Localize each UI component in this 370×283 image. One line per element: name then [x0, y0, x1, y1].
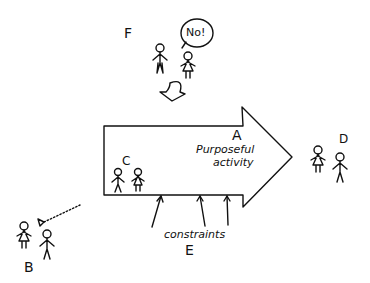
label-b: B [24, 260, 34, 274]
constraint-arrows [152, 196, 230, 227]
label-c: C [122, 155, 130, 167]
label-a: A [232, 128, 242, 142]
label-e: E [185, 243, 194, 257]
purposeful-activity-arrow [104, 107, 292, 207]
figure-group-d [311, 146, 347, 182]
speech-bubble-tail [182, 42, 186, 48]
f-to-a-arrow [160, 82, 185, 101]
arrow-text-line2: activity [213, 157, 254, 168]
figure-group-c [112, 169, 144, 193]
figure-group-f [153, 44, 195, 78]
figure-group-b [17, 222, 54, 259]
gaze-arrowhead [38, 219, 44, 226]
arrow-text-line1: Purposeful [196, 144, 254, 155]
constraints-text: constraints [164, 229, 225, 240]
speech-bubble-text: No! [186, 27, 205, 38]
label-d: D [339, 133, 348, 145]
dotted-gaze-line [44, 205, 80, 222]
label-f: F [124, 26, 132, 40]
